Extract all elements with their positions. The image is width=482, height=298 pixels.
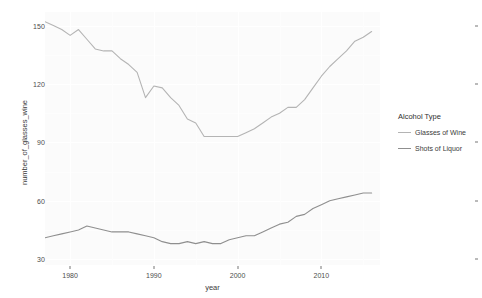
legend: Alcohol Type Glasses of WineShots of Liq… <box>398 112 480 159</box>
y-tick-mark <box>475 25 478 26</box>
x-tick-label: 1990 <box>146 272 162 279</box>
y-tick-label: 150 <box>0 22 45 29</box>
x-tick-label: 2010 <box>313 272 329 279</box>
y-tick-label: 30 <box>0 256 45 263</box>
legend-items: Glasses of WineShots of Liquor <box>398 127 480 154</box>
x-tick-mark <box>70 266 71 269</box>
x-tick-mark <box>153 266 154 269</box>
line-chart: 306090120150 1980199020002010 year numbe… <box>0 0 482 298</box>
y-tick-mark <box>475 259 478 260</box>
legend-item[interactable]: Glasses of Wine <box>398 127 480 138</box>
series-line <box>45 193 372 244</box>
legend-item-label: Shots of Liquor <box>415 145 462 152</box>
y-tick-mark <box>475 84 478 85</box>
legend-item-label: Glasses of Wine <box>415 129 466 136</box>
y-axis-title: number_of_glasses_wine <box>20 83 29 203</box>
x-tick-mark <box>237 266 238 269</box>
legend-title: Alcohol Type <box>398 112 480 121</box>
x-tick-label: 1980 <box>62 272 78 279</box>
legend-line-icon <box>398 143 411 154</box>
x-tick-label: 2000 <box>230 272 246 279</box>
series-line <box>45 22 372 137</box>
x-tick-mark <box>321 266 322 269</box>
legend-item[interactable]: Shots of Liquor <box>398 143 480 154</box>
x-axis-title: year <box>45 283 380 292</box>
legend-line-icon <box>398 127 411 138</box>
series-layer <box>45 12 380 265</box>
y-tick-mark <box>475 200 478 201</box>
plot-panel <box>45 12 380 265</box>
